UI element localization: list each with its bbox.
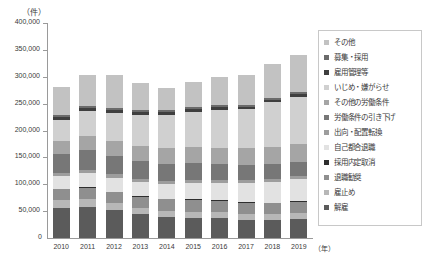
y-axis-unit-label: （件） [22, 6, 46, 17]
bar-segment [106, 156, 123, 175]
bar-segment [53, 87, 70, 115]
legend-swatch-icon [324, 70, 329, 75]
y-axis-tick-label: 400,000 [15, 18, 40, 25]
stacked-bar[interactable] [211, 77, 228, 238]
bar-segment [53, 208, 70, 238]
bar-segment [185, 163, 202, 179]
legend-label: 労働条件の引き下げ [334, 114, 395, 122]
bar-segment [290, 97, 307, 144]
legend-label: 雇用管理等 [334, 69, 368, 77]
bar-segment [53, 176, 70, 189]
stacked-bar[interactable] [132, 83, 149, 238]
stacked-bar[interactable] [185, 82, 202, 238]
legend-item[interactable]: 労働条件の引き下げ [324, 110, 418, 125]
bar-segment [132, 182, 149, 196]
y-axis-origin-label: 0 [38, 233, 42, 240]
bar-segment [238, 220, 255, 238]
bar-segment [132, 115, 149, 147]
bar-segment [79, 111, 96, 136]
bar-segment [185, 82, 202, 107]
legend-label: 採用内定取消 [334, 159, 375, 167]
bar-segment [53, 189, 70, 200]
bar-segment [132, 197, 149, 208]
bar-segment [211, 148, 228, 164]
bar-segment [53, 120, 70, 141]
bar-segment [158, 199, 175, 211]
y-axis-tick-label: 350,000 [15, 45, 40, 52]
legend-swatch-icon [324, 190, 329, 195]
plot-area [48, 23, 312, 238]
bar-segment [53, 154, 70, 173]
stacked-bar[interactable] [158, 88, 175, 239]
bar-segment [211, 201, 228, 212]
stacked-bar[interactable] [106, 75, 123, 238]
legend-label: その他 [334, 39, 354, 47]
stacked-bar[interactable] [238, 75, 255, 238]
bar-segment [106, 203, 123, 210]
stacked-bar[interactable] [264, 64, 281, 238]
stacked-bar[interactable] [79, 75, 96, 238]
x-axis-tick-label: 2019 [282, 243, 316, 250]
legend-swatch-icon [324, 40, 329, 45]
bar-segment [185, 183, 202, 200]
bar-segment [53, 200, 70, 208]
bar-segment [158, 148, 175, 164]
bar-segment [238, 183, 255, 202]
bar-segment [290, 219, 307, 238]
bar-segment [185, 218, 202, 238]
bar-segment [106, 75, 123, 108]
legend-item[interactable]: 退職勧奨 [324, 170, 418, 185]
legend-swatch-icon [324, 100, 329, 105]
legend-label: その他の労働条件 [334, 99, 388, 107]
y-axis-tick-label: 250,000 [15, 99, 40, 106]
bar-segment [264, 164, 281, 179]
bar-segment [211, 183, 228, 201]
legend-label: 出向・配置転換 [334, 129, 382, 137]
bar-segment [185, 147, 202, 163]
chart-figure: （件） 400,000350,000300,000250,000200,0001… [0, 0, 428, 274]
bar-segment [53, 141, 70, 154]
legend-label: 解雇 [334, 204, 348, 212]
bar-segment [132, 214, 149, 238]
legend-item[interactable]: 募集・採用 [324, 50, 418, 65]
bar-segment [290, 55, 307, 92]
y-axis-tick-label: 100,000 [15, 179, 40, 186]
legend-swatch-icon [324, 115, 329, 120]
legend-item[interactable]: 採用内定取消 [324, 155, 418, 170]
bar-segment [290, 144, 307, 162]
y-axis-tick-label: 300,000 [15, 72, 40, 79]
legend-swatch-icon [324, 55, 329, 60]
stacked-bar[interactable] [290, 55, 307, 238]
bar-segment [79, 207, 96, 238]
bar-segment [211, 77, 228, 105]
y-axis-tick-label: 50,000 [19, 206, 40, 213]
legend-swatch-icon [324, 175, 329, 180]
legend-item[interactable]: 出向・配置転換 [324, 125, 418, 140]
bar-segment [79, 150, 96, 170]
bar-segment [79, 173, 96, 187]
bar-segment [158, 217, 175, 238]
legend-item[interactable]: その他 [324, 35, 418, 50]
bar-segment [158, 115, 175, 148]
bar-segment [290, 162, 307, 177]
stacked-bar[interactable] [53, 87, 70, 238]
bar-segment [238, 75, 255, 105]
bar-segment [106, 178, 123, 192]
legend-item[interactable]: その他の労働条件 [324, 95, 418, 110]
legend-item[interactable]: 雇止め [324, 185, 418, 200]
bar-segment [132, 83, 149, 109]
legend-swatch-icon [324, 205, 329, 210]
bar-segment [158, 164, 175, 181]
legend-item[interactable]: 雇用管理等 [324, 65, 418, 80]
x-axis-line [47, 238, 313, 239]
bar-segment [158, 88, 175, 111]
legend-item[interactable]: いじめ・嫌がらせ [324, 80, 418, 95]
legend-label: 雇止め [334, 189, 354, 197]
legend-label: 退職勧奨 [334, 174, 361, 182]
legend-swatch-icon [324, 145, 329, 150]
bar-segment [79, 75, 96, 106]
legend-item[interactable]: 解雇 [324, 200, 418, 215]
bar-segment [264, 182, 281, 203]
legend-item[interactable]: 自己都合退職 [324, 140, 418, 155]
bar-segment [264, 203, 281, 214]
